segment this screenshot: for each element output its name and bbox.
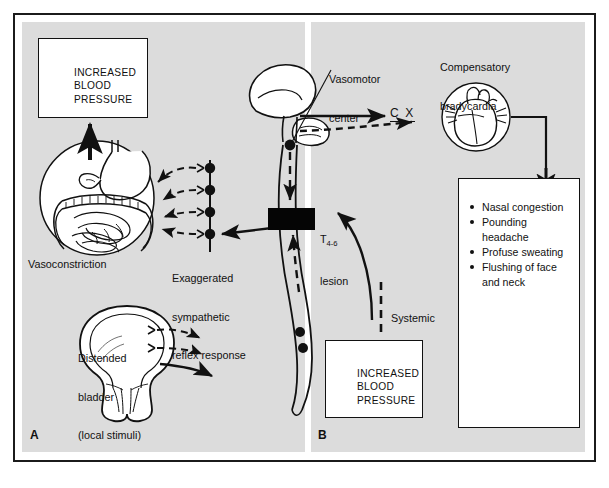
bullet-icon xyxy=(470,205,474,209)
lesion-word: lesion xyxy=(320,275,348,288)
exaggerated-reflex-label: Exaggerated sympathetic reflex response xyxy=(172,247,246,387)
lesion-level: T xyxy=(320,233,327,245)
cranial-nerve-x-label: C X xyxy=(390,106,415,122)
vasomotor-label-line2: center xyxy=(329,112,380,125)
vasomotor-center-label: Vasomotor center xyxy=(329,48,380,150)
compensatory-bradycardia-label: Compensatory bradycardia xyxy=(440,36,510,138)
symptom-item-1: Pounding headache xyxy=(470,215,574,245)
symptom-label-0: Nasal congestion xyxy=(482,201,563,213)
bp-b-line3: PRESSURE xyxy=(357,394,419,407)
bp-a-line1: INCREASED xyxy=(74,66,136,79)
panel-letter-b: B xyxy=(318,428,327,442)
distended-bladder-label: Distended bladder (local stimuli) xyxy=(78,327,141,467)
bp-b-line2: BLOOD xyxy=(357,380,419,393)
symptom-label-1: Pounding headache xyxy=(482,216,529,243)
bradycardia-label-line2: bradycardia xyxy=(440,100,510,113)
reflex-label-line1: Exaggerated xyxy=(172,272,246,285)
bladder-label-line3: (local stimuli) xyxy=(78,429,141,442)
vasoconstriction-label: Vasoconstriction xyxy=(28,258,106,271)
symptoms-list: Nasal congestion Pounding headache Profu… xyxy=(470,200,574,290)
panel-letter-a: A xyxy=(30,428,39,442)
reflex-label-line3: reflex response xyxy=(172,349,246,362)
bladder-label-line2: bladder xyxy=(78,391,141,404)
bp-a-line2: BLOOD xyxy=(74,79,136,92)
symptom-item-0: Nasal congestion xyxy=(470,200,574,215)
lesion-level-line: T4-6 xyxy=(320,233,348,249)
bp-a-line3: PRESSURE xyxy=(74,93,136,106)
symptom-item-2: Profuse sweating xyxy=(470,245,574,260)
symptom-label-3: Flushing of face xyxy=(482,261,557,273)
vasomotor-label-line1: Vasomotor xyxy=(329,73,380,86)
t4-6-lesion-label: T4-6 lesion xyxy=(320,208,348,313)
symptom-label-2: Profuse sweating xyxy=(482,246,563,258)
bp-b-line1: INCREASED xyxy=(357,367,419,380)
bp-box-a-text: INCREASED BLOOD PRESSURE xyxy=(74,66,136,106)
symptom-item-3-continuation: and neck xyxy=(470,275,574,290)
bladder-label-line1: Distended xyxy=(78,352,141,365)
bullet-icon xyxy=(470,220,474,224)
lesion-segments: 4-6 xyxy=(327,240,338,249)
bp-box-b-text: INCREASED BLOOD PRESSURE xyxy=(357,367,419,407)
figure-root: INCREASED BLOOD PRESSURE Vasoconstrictio… xyxy=(0,0,609,488)
reflex-label-line2: sympathetic xyxy=(172,311,246,324)
symptom-item-3: Flushing of face xyxy=(470,260,574,275)
bradycardia-label-line1: Compensatory xyxy=(440,61,510,74)
bullet-icon xyxy=(470,250,474,254)
systemic-route-line1: Systemic xyxy=(391,312,435,325)
bullet-icon xyxy=(470,265,474,269)
